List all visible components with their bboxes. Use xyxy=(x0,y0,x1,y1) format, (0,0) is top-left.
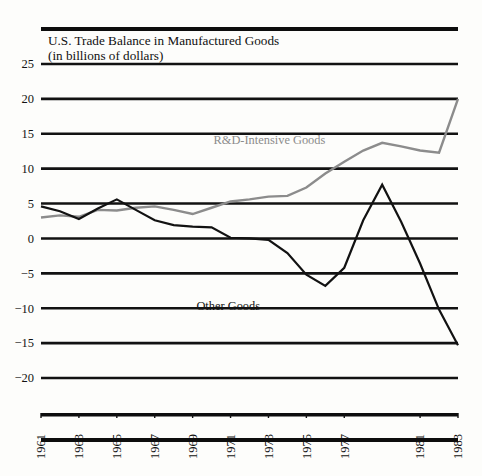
y-tick-label: 15 xyxy=(22,127,35,141)
y-tick-label: −5 xyxy=(21,267,34,281)
series-label-r-d-intensive-goods: R&D-Intensive Goods xyxy=(213,133,325,147)
y-tick-label: −15 xyxy=(14,336,34,350)
x-tick-label: 1975 xyxy=(300,434,314,459)
x-tick-label: 1983 xyxy=(451,434,465,459)
trade-balance-line-chart: U.S. Trade Balance in Manufactured Goods… xyxy=(0,0,482,476)
x-tick-label: 1963 xyxy=(72,434,86,459)
y-tick-label: −20 xyxy=(14,371,34,385)
chart-title-line2: (in billions of dollars) xyxy=(48,48,163,63)
x-tick-label: 1973 xyxy=(262,434,276,459)
x-tick-label: 1981 xyxy=(413,434,427,459)
y-tick-label: 25 xyxy=(22,57,35,71)
y-tick-label: 10 xyxy=(22,162,35,176)
chart-figure: U.S. Trade Balance in Manufactured Goods… xyxy=(0,0,482,476)
y-tick-label: 0 xyxy=(28,232,34,246)
x-tick-label: 1977 xyxy=(338,434,352,459)
x-tick-label: 1967 xyxy=(148,434,162,459)
x-tick-label: 1969 xyxy=(186,434,200,459)
x-axis-rule-top xyxy=(41,413,458,417)
top-rule xyxy=(41,27,458,31)
y-tick-label: 5 xyxy=(28,197,34,211)
series-label-other-goods: Other Goods xyxy=(196,299,260,313)
x-tick-label: 1971 xyxy=(224,434,238,459)
y-tick-label: 20 xyxy=(22,92,35,106)
x-axis-rule-bottom xyxy=(41,438,458,442)
x-tick-label: 1961 xyxy=(34,434,48,459)
chart-title-line1: U.S. Trade Balance in Manufactured Goods xyxy=(48,33,279,48)
x-tick-label: 1965 xyxy=(110,434,124,459)
y-tick-label: −10 xyxy=(14,302,34,316)
